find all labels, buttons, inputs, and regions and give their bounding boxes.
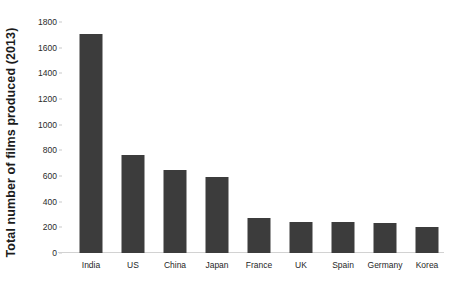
- bar-series: IndiaUSChinaJapanFranceUKSpainGermanyKor…: [62, 22, 444, 253]
- bar-group: India: [70, 22, 112, 253]
- bar-group: UK: [280, 22, 322, 253]
- y-tick-label: 400: [43, 197, 57, 207]
- bar: [416, 227, 439, 253]
- bar: [290, 222, 313, 253]
- y-tick-label: 1400: [38, 68, 57, 78]
- x-tick-label: France: [246, 260, 272, 270]
- bar-group: Korea: [406, 22, 448, 253]
- bar-group: Spain: [322, 22, 364, 253]
- x-tick-label: India: [82, 260, 100, 270]
- y-tick-label: 1200: [38, 94, 57, 104]
- x-tick-label: Germany: [368, 260, 403, 270]
- bar: [122, 155, 145, 253]
- bar: [248, 218, 271, 253]
- bar-chart: Total number of films produced (2013) 02…: [0, 0, 449, 285]
- y-axis-title: Total number of films produced (2013): [0, 0, 22, 285]
- y-tick-label: 200: [43, 222, 57, 232]
- x-tick-label: Japan: [205, 260, 228, 270]
- y-tick-label: 800: [43, 145, 57, 155]
- y-tick-label: 1800: [38, 17, 57, 27]
- bar-group: France: [238, 22, 280, 253]
- y-tick-label: 1600: [38, 43, 57, 53]
- y-tick-label: 1000: [38, 120, 57, 130]
- bar: [80, 34, 103, 253]
- x-tick-label: China: [164, 260, 186, 270]
- bar: [164, 170, 187, 253]
- y-tick-label: 600: [43, 171, 57, 181]
- bar: [206, 177, 229, 253]
- y-tick-label: 0: [52, 248, 57, 258]
- x-tick-label: UK: [295, 260, 307, 270]
- bar: [332, 222, 355, 253]
- x-tick-label: US: [127, 260, 139, 270]
- plot-area: 020040060080010001200140016001800 IndiaU…: [62, 22, 444, 253]
- bar-group: Japan: [196, 22, 238, 253]
- bar-group: US: [112, 22, 154, 253]
- bar: [374, 223, 397, 253]
- x-tick-label: Korea: [416, 260, 439, 270]
- x-tick-label: Spain: [332, 260, 354, 270]
- bar-group: Germany: [364, 22, 406, 253]
- bar-group: China: [154, 22, 196, 253]
